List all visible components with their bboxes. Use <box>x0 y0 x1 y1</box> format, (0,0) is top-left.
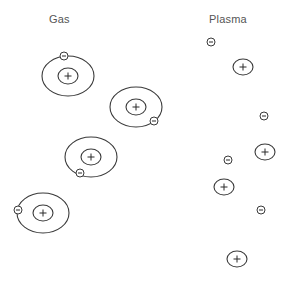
ion-plus-icon <box>227 251 247 267</box>
gas-atom <box>42 52 94 96</box>
free-electron-minus-icon <box>207 38 215 46</box>
free-electron-minus-icon <box>224 156 232 164</box>
free-electron-minus-icon <box>257 206 265 214</box>
nucleus-plus-icon <box>58 68 78 84</box>
gas-atom <box>14 193 69 233</box>
electron-minus-icon <box>14 206 22 214</box>
diagram-canvas <box>0 0 287 281</box>
ion-plus-icon <box>214 179 234 195</box>
electron-minus-icon <box>150 117 158 125</box>
gas-atoms <box>14 52 162 233</box>
electron-minus-icon <box>60 52 68 60</box>
gas-vs-plasma-diagram: Gas Plasma <box>0 0 287 281</box>
nucleus-plus-icon <box>81 149 101 165</box>
gas-atom <box>65 137 117 177</box>
electron-minus-icon <box>76 169 84 177</box>
free-electron-minus-icon <box>260 112 268 120</box>
gas-atom <box>110 87 162 127</box>
nucleus-plus-icon <box>33 205 53 221</box>
ion-plus-icon <box>255 144 275 160</box>
nucleus-plus-icon <box>126 99 146 115</box>
plasma-particles <box>207 38 275 267</box>
ion-plus-icon <box>233 59 253 75</box>
